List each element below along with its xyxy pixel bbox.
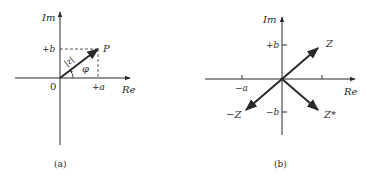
b-im-label: Im [262,14,276,25]
a-angle-arc [71,70,74,78]
a-magnitude-label: |z| [63,55,76,68]
b-re-label: Re [343,86,358,97]
a-point-p-label: P [102,43,110,54]
b-origin-dot [280,77,283,80]
b-minus-b-label: −b [266,107,280,117]
b-minus-a-label: −a [235,83,248,93]
b-caption: (b) [274,159,287,169]
a-plus-a-label: +a [92,82,105,92]
b-neg-z-label: −Z [226,109,242,120]
b-z-label: Z [325,38,334,49]
diagram-b: Im Re +b −b −a Z −Z Z* (b) [205,14,358,169]
a-im-label: Im [41,12,55,23]
b-vector-neg-z [246,79,282,110]
b-vector-z-conj [282,79,318,110]
diagram-a: Im Re 0 +b +a P |z| φ (a) [15,12,136,169]
a-angle-label: φ [82,63,89,74]
a-caption: (a) [54,159,66,169]
a-re-label: Re [121,84,136,95]
a-plus-b-label: +b [42,44,56,54]
b-plus-b-label: +b [266,40,280,50]
b-z-conj-label: Z* [323,109,336,120]
a-origin-label: 0 [50,81,56,92]
b-vector-z [282,48,318,79]
